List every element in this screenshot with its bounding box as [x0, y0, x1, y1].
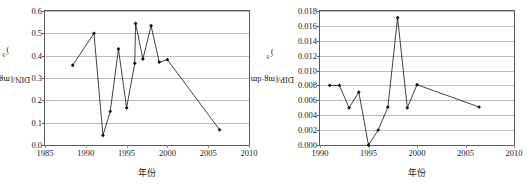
din-data-point [157, 60, 161, 64]
dip-y-tick-label: 0.008 [298, 81, 317, 90]
figure-container: DIN/(mg·dm-3) 0.00.10.20.30.40.50.619851… [0, 0, 530, 184]
din-data-point [149, 24, 153, 28]
dip-plot-area: 0.0000.0020.0040.0060.0080.0100.0120.014… [319, 10, 515, 146]
dip-data-point [396, 16, 400, 20]
din-data-point [117, 47, 121, 51]
dip-x-tick-label: 2005 [457, 149, 474, 158]
din-x-tick-label: 1985 [37, 149, 54, 158]
din-data-series [45, 11, 249, 145]
din-x-tick-label: 2000 [159, 149, 176, 158]
dip-line [330, 18, 479, 145]
dip-y-axis-title-suffix: ) [271, 47, 274, 57]
dip-data-point [386, 105, 390, 109]
dip-y-tick-label: 0.002 [298, 126, 317, 135]
din-data-point [134, 22, 138, 26]
din-data-point [141, 57, 145, 61]
dip-data-point [338, 84, 342, 88]
dip-data-point [357, 90, 361, 94]
din-chart-panel: DIN/(mg·dm-3) 0.00.10.20.30.40.50.619851… [0, 0, 265, 184]
din-x-tick-label: 1990 [77, 149, 94, 158]
din-x-tick-label: 2005 [200, 149, 217, 158]
din-y-axis-title-suffix: ) [6, 46, 9, 56]
din-data-point [108, 109, 112, 113]
dip-y-tick-label: 0.012 [298, 51, 317, 60]
dip-y-axis-title-text: DIP/(mg·dm [251, 75, 294, 85]
din-data-point [101, 133, 105, 137]
din-x-axis-title: 年份 [44, 166, 250, 179]
dip-data-point [405, 106, 409, 110]
din-y-tick-label: 0.1 [31, 118, 42, 127]
din-y-tick-label: 0.3 [31, 74, 42, 83]
dip-data-point [415, 83, 419, 87]
dip-y-axis-title: DIP/(mg·dm-3) [265, 6, 279, 146]
din-y-tick-label: 0.2 [31, 96, 42, 105]
dip-y-tick-label: 0.004 [298, 111, 317, 120]
dip-y-tick-label: 0.014 [298, 37, 317, 46]
din-y-axis-title-text: DIN/(mg·dm [0, 75, 30, 85]
din-y-tick-label: 0.6 [31, 7, 42, 16]
din-y-axis-title: DIN/(mg·dm-3) [0, 6, 14, 146]
dip-x-tick-label: 1990 [312, 149, 329, 158]
din-plot-area: 0.00.10.20.30.40.50.61985199019952000200… [44, 10, 250, 146]
dip-x-axis-title: 年份 [319, 166, 515, 179]
dip-data-point [477, 105, 481, 109]
dip-chart-panel: DIP/(mg·dm-3) 0.0000.0020.0040.0060.0080… [265, 0, 530, 184]
dip-y-tick-label: 0.018 [298, 7, 317, 16]
din-line [73, 24, 220, 136]
dip-data-series [320, 11, 514, 145]
dip-data-point [347, 106, 351, 110]
dip-data-point [328, 84, 332, 88]
dip-x-tick-label: 2010 [506, 149, 523, 158]
dip-x-tick-label: 2000 [409, 149, 426, 158]
din-y-tick-label: 0.5 [31, 29, 42, 38]
dip-y-tick-label: 0.006 [298, 96, 317, 105]
din-y-tick-label: 0.4 [31, 51, 42, 60]
din-x-tick-label: 2010 [241, 149, 258, 158]
dip-y-tick-label: 0.010 [298, 66, 317, 75]
dip-x-tick-label: 1995 [360, 149, 377, 158]
din-data-point [133, 61, 137, 65]
din-data-point [125, 106, 129, 110]
din-x-tick-label: 1995 [118, 149, 135, 158]
dip-y-tick-label: 0.016 [298, 22, 317, 31]
